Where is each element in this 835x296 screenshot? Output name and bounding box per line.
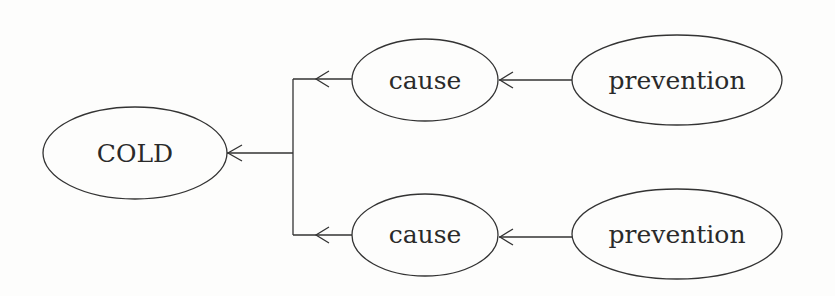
node-prevention-bottom: prevention bbox=[572, 189, 782, 279]
cause-effect-diagram: COLD cause cause prevention prevention bbox=[0, 0, 835, 296]
node-prevention-top: prevention bbox=[572, 35, 782, 125]
node-cause-top-label: cause bbox=[389, 66, 462, 95]
node-cause-top: cause bbox=[352, 39, 498, 121]
node-cause-bottom: cause bbox=[352, 194, 498, 276]
node-cold: COLD bbox=[43, 107, 227, 199]
node-cold-label: COLD bbox=[97, 139, 173, 168]
node-cause-bottom-label: cause bbox=[389, 220, 462, 249]
edges bbox=[227, 71, 572, 245]
node-prevention-top-label: prevention bbox=[609, 66, 746, 95]
node-prevention-bottom-label: prevention bbox=[609, 220, 746, 249]
